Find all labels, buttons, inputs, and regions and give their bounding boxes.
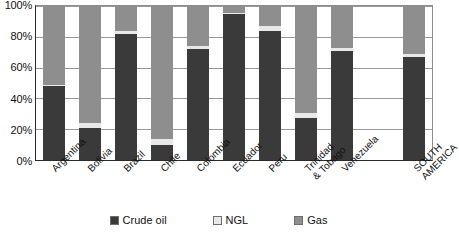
stacked-bar[interactable] bbox=[43, 6, 65, 160]
bar-segment-gas bbox=[403, 6, 425, 54]
legend-label: NGL bbox=[226, 215, 249, 226]
x-tick-slot: Venezuela bbox=[325, 162, 361, 210]
square-swatch-icon bbox=[294, 216, 303, 225]
y-tick-label: 40% bbox=[11, 93, 32, 104]
x-tick-slot: Chile bbox=[144, 162, 180, 210]
bar-slot bbox=[144, 6, 180, 160]
square-swatch-icon bbox=[110, 216, 119, 225]
legend-label: Crude oil bbox=[123, 215, 167, 226]
bar-slot bbox=[108, 6, 144, 160]
y-tick-label: 0% bbox=[17, 156, 33, 167]
bar-segment-gas bbox=[259, 6, 281, 26]
bar-segment-gas bbox=[151, 6, 173, 139]
bar-segment-crude-oil bbox=[403, 57, 425, 160]
bar-slot bbox=[396, 6, 432, 160]
bar-segment-gas bbox=[79, 6, 101, 123]
y-axis: 100%80%60%40%20%0% bbox=[0, 0, 34, 165]
bar-segment-gas bbox=[223, 6, 245, 13]
y-tick-label: 60% bbox=[11, 62, 32, 73]
x-axis: ArgentinaBoliviaBrazilChileColombiaEcuad… bbox=[35, 162, 433, 210]
legend-item-crude-oil[interactable]: Crude oil bbox=[110, 215, 167, 226]
bar-segment-gas bbox=[187, 6, 209, 46]
stacked-bar[interactable] bbox=[403, 6, 425, 160]
bar-slot bbox=[36, 6, 72, 160]
bar-segment-crude-oil bbox=[115, 34, 137, 160]
x-tick-slot: Trinidad& Tobago bbox=[288, 162, 324, 210]
y-tick-label: 20% bbox=[11, 124, 32, 135]
square-swatch-icon bbox=[213, 216, 222, 225]
legend-label: Gas bbox=[307, 215, 327, 226]
stacked-bar[interactable] bbox=[295, 6, 317, 160]
bar-segment-gas bbox=[295, 6, 317, 113]
x-tick-slot: Peru bbox=[252, 162, 288, 210]
stacked-bar[interactable] bbox=[259, 6, 281, 160]
x-tick-slot: Bolivia bbox=[71, 162, 107, 210]
bar-segment-gas bbox=[331, 6, 353, 48]
bar-segment-crude-oil bbox=[187, 49, 209, 160]
x-tick-slot: SOUTHAMERICA bbox=[397, 162, 433, 210]
bar-segment-gas bbox=[115, 6, 137, 31]
y-tick-label: 100% bbox=[5, 0, 32, 11]
stacked-bar[interactable] bbox=[331, 6, 353, 160]
stacked-bar[interactable] bbox=[115, 6, 137, 160]
x-tick-slot bbox=[361, 162, 397, 210]
legend-item-gas[interactable]: Gas bbox=[294, 215, 327, 226]
bar-slot bbox=[216, 6, 252, 160]
bar-segment-crude-oil bbox=[259, 31, 281, 160]
bar-slot bbox=[288, 6, 324, 160]
bar-slot bbox=[360, 6, 396, 160]
x-tick-slot: Argentina bbox=[35, 162, 71, 210]
bar-slot bbox=[252, 6, 288, 160]
stacked-bar[interactable] bbox=[79, 6, 101, 160]
legend-item-ngl[interactable]: NGL bbox=[213, 215, 249, 226]
bar-slot bbox=[324, 6, 360, 160]
legend: Crude oilNGLGas bbox=[0, 210, 437, 230]
x-tick-slot: Ecuador bbox=[216, 162, 252, 210]
stacked-bar[interactable] bbox=[187, 6, 209, 160]
x-tick-slot: Colombia bbox=[180, 162, 216, 210]
y-tick-label: 80% bbox=[11, 31, 32, 42]
bar-slot bbox=[180, 6, 216, 160]
bar-segment-gas bbox=[43, 6, 65, 85]
stacked-bar[interactable] bbox=[223, 6, 245, 160]
stacked-bar[interactable] bbox=[151, 6, 173, 160]
x-tick-slot: Brazil bbox=[107, 162, 143, 210]
bar-segment-crude-oil bbox=[43, 86, 65, 160]
